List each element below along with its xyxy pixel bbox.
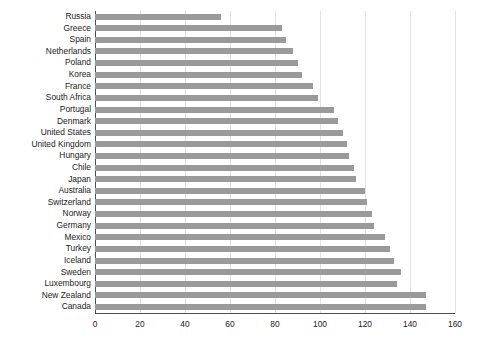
bar-row bbox=[95, 46, 455, 58]
category-label: Sweden bbox=[0, 267, 91, 279]
category-label: Germany bbox=[0, 220, 91, 232]
gridline bbox=[455, 11, 456, 313]
bar-row bbox=[95, 255, 455, 267]
bar bbox=[95, 188, 365, 194]
bar bbox=[95, 246, 390, 252]
bar-row bbox=[95, 127, 455, 139]
category-label: United Kingdom bbox=[0, 139, 91, 151]
bar bbox=[95, 95, 318, 101]
bar-row bbox=[95, 232, 455, 244]
category-label: Mexico bbox=[0, 232, 91, 244]
bar-row bbox=[95, 174, 455, 186]
x-tick-label: 60 bbox=[210, 318, 250, 330]
bar-row bbox=[95, 243, 455, 255]
bar bbox=[95, 130, 343, 136]
bar-row bbox=[95, 139, 455, 151]
x-tick-label: 40 bbox=[165, 318, 205, 330]
x-axis-tick-labels: 020406080100120140160 bbox=[0, 318, 484, 332]
bar bbox=[95, 304, 426, 310]
x-tick-label: 140 bbox=[390, 318, 430, 330]
x-tick-label: 100 bbox=[300, 318, 340, 330]
category-label: Norway bbox=[0, 208, 91, 220]
category-label: Turkey bbox=[0, 243, 91, 255]
bar bbox=[95, 25, 282, 31]
bar-row bbox=[95, 208, 455, 220]
bar bbox=[95, 199, 367, 205]
category-label: Switzerland bbox=[0, 197, 91, 209]
bar bbox=[95, 211, 372, 217]
category-label: Greece bbox=[0, 23, 91, 35]
bar-row bbox=[95, 81, 455, 93]
x-axis-line bbox=[95, 313, 455, 314]
bar-row bbox=[95, 185, 455, 197]
category-label: Canada bbox=[0, 301, 91, 313]
bar-row bbox=[95, 92, 455, 104]
category-label: Poland bbox=[0, 57, 91, 69]
category-label: Spain bbox=[0, 34, 91, 46]
bar bbox=[95, 258, 394, 264]
bar bbox=[95, 153, 349, 159]
category-label: Korea bbox=[0, 69, 91, 81]
bar-row bbox=[95, 23, 455, 35]
bar bbox=[95, 223, 374, 229]
bar bbox=[95, 176, 356, 182]
category-label: New Zealand bbox=[0, 290, 91, 302]
bar-row bbox=[95, 69, 455, 81]
bar bbox=[95, 118, 338, 124]
bar-rows bbox=[95, 11, 455, 313]
bar bbox=[95, 83, 313, 89]
bar bbox=[95, 72, 302, 78]
category-label: United States bbox=[0, 127, 91, 139]
x-tick-label: 160 bbox=[435, 318, 475, 330]
bar bbox=[95, 165, 354, 171]
bar bbox=[95, 292, 426, 298]
bar-row bbox=[95, 278, 455, 290]
category-label: Hungary bbox=[0, 150, 91, 162]
x-tick-label: 0 bbox=[75, 318, 115, 330]
bar-row bbox=[95, 290, 455, 302]
category-label: Japan bbox=[0, 174, 91, 186]
bar bbox=[95, 234, 385, 240]
bar bbox=[95, 37, 286, 43]
bar-row bbox=[95, 220, 455, 232]
bar bbox=[95, 60, 298, 66]
category-label: Russia bbox=[0, 11, 91, 23]
plot-area bbox=[95, 11, 455, 313]
category-label: Portugal bbox=[0, 104, 91, 116]
category-label: Luxembourg bbox=[0, 278, 91, 290]
bar bbox=[95, 269, 401, 275]
category-label: Denmark bbox=[0, 116, 91, 128]
x-tick-label: 80 bbox=[255, 318, 295, 330]
x-tick-label: 20 bbox=[120, 318, 160, 330]
bar-row bbox=[95, 57, 455, 69]
bar-row bbox=[95, 197, 455, 209]
bar-row bbox=[95, 11, 455, 23]
bar-row bbox=[95, 301, 455, 313]
category-label: Iceland bbox=[0, 255, 91, 267]
category-label: Netherlands bbox=[0, 46, 91, 58]
bar-row bbox=[95, 104, 455, 116]
bar-chart: RussiaGreeceSpainNetherlandsPolandKoreaF… bbox=[0, 0, 484, 348]
category-label: Chile bbox=[0, 162, 91, 174]
bar bbox=[95, 281, 397, 287]
bar-row bbox=[95, 267, 455, 279]
bar-row bbox=[95, 162, 455, 174]
category-label: South Africa bbox=[0, 92, 91, 104]
category-axis-labels: RussiaGreeceSpainNetherlandsPolandKoreaF… bbox=[0, 11, 91, 313]
x-tick-label: 120 bbox=[345, 318, 385, 330]
bar bbox=[95, 107, 334, 113]
category-label: Australia bbox=[0, 185, 91, 197]
bar bbox=[95, 48, 293, 54]
bar-row bbox=[95, 34, 455, 46]
category-label: France bbox=[0, 81, 91, 93]
bar bbox=[95, 141, 347, 147]
bar-row bbox=[95, 150, 455, 162]
bar-row bbox=[95, 116, 455, 128]
bar bbox=[95, 14, 221, 20]
